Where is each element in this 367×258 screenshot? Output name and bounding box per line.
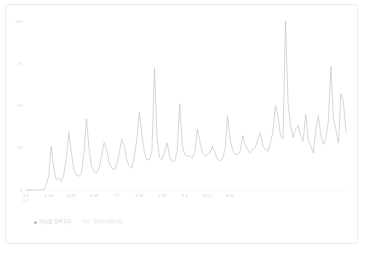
legend-series-label: 이슈별 검색 추이: [40, 220, 70, 224]
y-axis-tick-group: 0255075100: [15, 19, 23, 193]
x-axis-tick-group: 6.16.106.196.287.77.167.258.38.128.21202…: [22, 193, 235, 203]
chart-plot-area: 0255075100 6.16.106.196.287.77.167.258.3…: [6, 5, 357, 243]
x-axis-tick-label: 7.16: [135, 193, 144, 198]
x-axis-tick-label: 8.12: [203, 193, 212, 198]
x-axis-tick-label: 7.7: [114, 193, 120, 198]
series-line-path: [26, 21, 346, 190]
legend-source-note: 자료 : 네이버 데이터랩: [82, 220, 123, 224]
x-axis-tick-label: 8.3: [182, 193, 188, 198]
legend-dot-icon: [34, 221, 37, 224]
trend-line-chart: 0255075100 6.16.106.196.287.77.167.258.3…: [6, 5, 357, 243]
y-axis-tick-label: 0: [20, 188, 23, 193]
x-axis-tick-label: 6.28: [90, 193, 99, 198]
y-axis-tick-label: 100: [15, 19, 23, 24]
y-axis-tick-label: 75: [17, 61, 22, 66]
x-axis-tick-label: 6.10: [45, 193, 54, 198]
x-axis-tick-label: 7.25: [158, 193, 167, 198]
chart-legend: 이슈별 검색 추이 자료 : 네이버 데이터랩: [34, 218, 123, 227]
chart-card: 0255075100 6.16.106.196.287.77.167.258.3…: [5, 4, 358, 244]
chart-screen: 0255075100 6.16.106.196.287.77.167.258.3…: [0, 0, 367, 258]
x-axis-tick-label: 6.19: [67, 193, 76, 198]
y-axis-tick-label: 25: [17, 145, 22, 150]
x-axis-tick-label: 6.1: [23, 193, 29, 198]
x-axis-year-sublabel: 2021: [22, 199, 30, 203]
x-axis-tick-label: 8.21: [226, 193, 235, 198]
y-axis-tick-label: 50: [17, 103, 22, 108]
